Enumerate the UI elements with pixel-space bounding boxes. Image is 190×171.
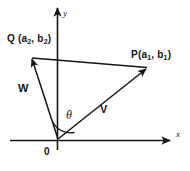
point-p-mid: , b — [151, 49, 163, 60]
point-q-mid: , b — [31, 33, 43, 44]
point-label-p: P(a1, b1) — [131, 50, 171, 61]
vector-w-arrow — [32, 59, 58, 139]
point-label-q: Q (a2, b2) — [7, 34, 51, 45]
x-axis-label: x — [176, 130, 180, 139]
point-p-open: (a — [138, 49, 147, 60]
segment-qp — [32, 58, 147, 68]
point-q-open: (a — [15, 33, 27, 44]
point-p-prefix: P — [131, 49, 138, 60]
y-axis-label: y — [63, 9, 67, 18]
diagram-canvas — [0, 0, 190, 171]
origin-label: 0 — [44, 147, 50, 157]
vector-diagram: y x Q (a2, b2) P(a1, b1) W V θ 0 — [0, 0, 190, 171]
point-q-prefix: Q — [7, 33, 15, 44]
angle-theta-label: θ — [66, 109, 72, 121]
vector-w-label: W — [18, 83, 28, 94]
vector-v-label: V — [100, 104, 107, 115]
point-p-close: ) — [168, 49, 172, 60]
point-q-close: ) — [48, 33, 52, 44]
